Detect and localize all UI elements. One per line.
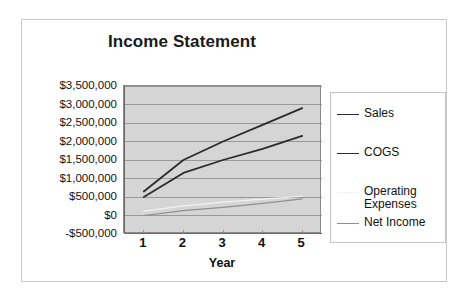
series-line [144,196,302,211]
x-axis-title: Year [123,256,321,270]
page-title: Income Statement [22,32,342,52]
x-axis-tick-label: 4 [258,235,265,250]
legend-line-icon [337,186,359,199]
x-axis-tick-label: 2 [179,235,186,250]
x-axis-tick-label: 1 [139,235,146,250]
legend-item-operating-expenses[interactable]: Operating Expenses [337,185,445,211]
legend-item-cogs[interactable]: COGS [337,146,445,160]
plot-area [123,85,321,233]
legend-item-label: Sales [364,107,394,120]
x-axis-tick-labels: 12345 [123,235,321,255]
y-axis-tick-label: $1,000,000 [17,172,117,184]
legend-item-label: COGS [364,146,399,159]
chart-frame: Income Statement $3,500,000$3,000,000$2,… [21,19,447,282]
y-axis-tick-label: $2,500,000 [17,116,117,128]
chart-legend: SalesCOGSOperating ExpensesNet Income [330,92,446,243]
series-line [144,136,302,197]
y-axis-tick-label: $0 [17,209,117,221]
series-line [144,199,302,216]
legend-line-icon [337,217,359,230]
y-axis-tick-label: $3,500,000 [17,79,117,91]
y-axis-tick-label: $500,000 [17,190,117,202]
y-axis-tick-label: $3,000,000 [17,98,117,110]
y-axis-tick-labels: $3,500,000$3,000,000$2,500,000$2,000,000… [17,77,117,241]
y-axis-tick-label: $1,500,000 [17,153,117,165]
x-axis-tick-label: 3 [218,235,225,250]
legend-line-icon [337,108,359,121]
series-line [144,108,302,191]
legend-item-sales[interactable]: Sales [337,107,445,121]
x-axis-tick-label: 5 [298,235,305,250]
legend-line-icon [337,147,359,160]
legend-item-label: Net Income [364,216,425,229]
legend-item-label: Operating Expenses [364,185,417,211]
plot-svg [124,86,322,234]
y-axis-tick-label: -$500,000 [17,227,117,239]
legend-item-net-income[interactable]: Net Income [337,216,445,230]
y-axis-tick-label: $2,000,000 [17,135,117,147]
